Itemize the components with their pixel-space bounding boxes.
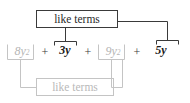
operator-plus-1: + — [38, 44, 52, 60]
term-3y: 3y — [54, 43, 76, 59]
term-9y2: 9y2 — [99, 44, 127, 60]
bottom-like-terms-box — [37, 79, 114, 96]
like-terms-diagram: like terms like terms 8y2 3y 9y2 5y + + … — [0, 0, 190, 103]
connector-9y2-down — [114, 60, 123, 88]
term-9y2-base: 9y — [105, 44, 116, 59]
operator-plus-3: + — [130, 44, 144, 60]
term-8y2: 8y2 — [8, 44, 36, 60]
connector-8y2-to-bottom — [21, 60, 37, 88]
operator-plus-2: + — [81, 44, 95, 60]
term-5y-base: 5y — [155, 43, 166, 58]
term-3y-base: 3y — [59, 43, 70, 58]
term-8y2-base: 8y — [14, 44, 25, 59]
top-like-terms-box — [37, 11, 118, 28]
term-5y: 5y — [150, 43, 172, 59]
